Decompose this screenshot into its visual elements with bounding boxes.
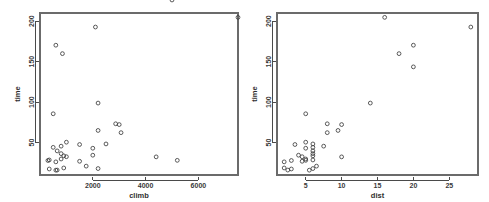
scatter-plot-figure: 50100150200200040006000climbtime 5010015…: [0, 0, 489, 202]
x-tick-label: 4000: [138, 182, 154, 189]
data-point: [117, 123, 121, 127]
plot-frame: [40, 13, 238, 175]
data-point: [55, 149, 59, 153]
data-point: [119, 131, 123, 135]
plot-frame: [277, 13, 478, 175]
data-point: [297, 153, 301, 157]
x-tick-label: 5: [304, 182, 308, 189]
x-tick-label: 25: [445, 182, 453, 189]
y-axis-title: time: [13, 86, 22, 101]
x-axis-title: dist: [371, 191, 385, 200]
data-point: [282, 160, 286, 164]
y-tick-label: 200: [28, 15, 35, 27]
data-point: [411, 43, 415, 47]
data-point: [54, 160, 58, 164]
data-point: [78, 159, 82, 163]
data-point: [84, 164, 88, 168]
data-point: [154, 155, 158, 159]
data-point: [96, 167, 100, 171]
data-point: [91, 153, 95, 157]
panel-dist-canvas: 50100150200510152025disttime: [244, 0, 489, 202]
data-point: [315, 164, 319, 168]
data-point: [51, 145, 55, 149]
x-axis-title: climb: [129, 191, 149, 200]
data-point: [289, 159, 293, 163]
data-point: [469, 25, 473, 29]
data-point: [325, 122, 329, 126]
data-point: [304, 146, 308, 150]
x-tick-label: 20: [409, 182, 417, 189]
data-point: [59, 152, 63, 156]
data-point: [282, 166, 286, 170]
y-tick-label: 200: [265, 15, 272, 27]
data-point: [51, 112, 55, 116]
data-point: [62, 166, 66, 170]
panel-climb: 50100150200200040006000climbtime: [0, 0, 244, 202]
data-point: [368, 101, 372, 105]
data-point: [65, 140, 69, 144]
data-point: [340, 155, 344, 159]
data-point: [336, 129, 340, 133]
data-point: [96, 101, 100, 105]
y-tick-label: 100: [265, 96, 272, 108]
data-point: [293, 143, 297, 147]
data-point: [383, 15, 387, 19]
data-point: [411, 65, 415, 69]
data-point: [59, 144, 63, 148]
data-points: [282, 15, 472, 172]
data-point: [47, 167, 51, 171]
data-point: [175, 158, 179, 162]
y-tick-label: 150: [265, 56, 272, 68]
x-tick-label: 2000: [85, 182, 101, 189]
y-axis-title: time: [250, 86, 259, 101]
data-points: [46, 0, 240, 172]
y-tick-label: 100: [28, 96, 35, 108]
data-point: [78, 143, 82, 147]
data-point: [340, 123, 344, 127]
data-point: [94, 25, 98, 29]
data-point: [170, 0, 174, 2]
data-point: [304, 112, 308, 116]
y-tick-label: 50: [28, 139, 35, 147]
data-point: [96, 129, 100, 133]
data-point: [289, 167, 293, 171]
data-point: [304, 140, 308, 144]
data-point: [91, 146, 95, 150]
data-point: [61, 52, 65, 56]
data-point: [397, 52, 401, 56]
data-point: [59, 157, 63, 161]
data-point: [322, 144, 326, 148]
data-point: [311, 167, 315, 171]
panel-dist: 50100150200510152025disttime: [244, 0, 488, 202]
x-tick-label: 6000: [191, 182, 207, 189]
x-tick-label: 15: [374, 182, 382, 189]
data-point: [325, 131, 329, 135]
data-point: [311, 158, 315, 162]
y-tick-label: 50: [265, 139, 272, 147]
x-tick-label: 10: [338, 182, 346, 189]
y-tick-label: 150: [28, 56, 35, 68]
data-point: [104, 142, 108, 146]
data-point: [54, 43, 58, 47]
panel-climb-canvas: 50100150200200040006000climbtime: [0, 0, 244, 202]
